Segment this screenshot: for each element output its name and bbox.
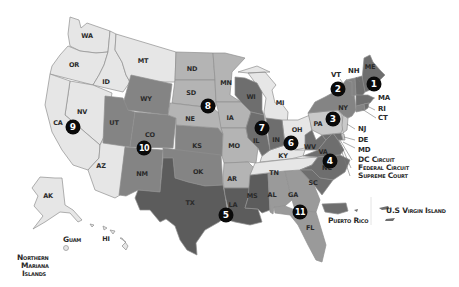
label-ok: OK — [193, 169, 203, 176]
label-id: ID — [102, 79, 109, 86]
label-sc: SC — [308, 180, 317, 187]
circuit-badge-8[interactable]: 8 — [201, 99, 216, 114]
label-pa: PA — [314, 121, 323, 128]
label-nj: NJ — [358, 126, 366, 133]
label-me: ME — [365, 64, 376, 71]
label-co: CO — [145, 132, 155, 139]
label-ne: NE — [185, 116, 194, 123]
label-ak: AK — [43, 193, 53, 200]
label-or: OR — [69, 62, 79, 69]
label-la: LA — [229, 202, 238, 209]
label-mt: MT — [138, 58, 149, 65]
guam-shape[interactable] — [64, 246, 69, 251]
label-oh: OH — [292, 127, 303, 134]
label-ia: IA — [226, 115, 233, 122]
label-nh: NH — [348, 68, 359, 75]
label-ut: UT — [109, 120, 118, 127]
label-nv: NV — [77, 109, 87, 116]
label-usvi: U.S Virgin Island — [386, 207, 446, 215]
puerto-rico-islet — [354, 209, 358, 212]
label-wi: WI — [246, 94, 255, 101]
circuit-badge-3[interactable]: 3 — [326, 112, 341, 127]
label-nm: NM — [136, 171, 148, 178]
label-mo: MO — [228, 143, 240, 150]
label-ma: MA — [378, 95, 390, 102]
label-md: MD — [358, 147, 370, 154]
label-supreme-court: Supreme Court — [358, 172, 408, 180]
circuit-badge-6[interactable]: 6 — [284, 136, 299, 151]
circuit-badge-10[interactable]: 10 — [137, 141, 152, 156]
label-il: IL — [253, 138, 259, 145]
label-al: AL — [268, 192, 277, 199]
circuit-badge-4[interactable]: 4 — [323, 154, 338, 169]
label-in: IN — [272, 137, 279, 144]
label-tx: TX — [185, 200, 194, 207]
label-wa: WA — [81, 33, 93, 40]
circuit-badge-7[interactable]: 7 — [255, 121, 270, 136]
label-wy: WY — [140, 96, 151, 103]
circuit-badge-1[interactable]: 1 — [367, 77, 382, 92]
label-ri: RI — [378, 106, 386, 113]
label-mn: MN — [220, 80, 232, 87]
state-ak[interactable] — [32, 177, 82, 229]
puerto-rico-shape[interactable] — [322, 203, 348, 214]
circuit-badge-9[interactable]: 9 — [66, 120, 81, 135]
circuit-badge-2[interactable]: 2 — [331, 82, 346, 97]
label-wv: WV — [304, 144, 316, 151]
label-nd: ND — [187, 66, 197, 73]
circuit-badge-5[interactable]: 5 — [219, 208, 234, 223]
label-sd: SD — [186, 90, 196, 97]
label-nmi-line3: Islands — [22, 270, 46, 278]
label-mi: MI — [276, 100, 285, 107]
label-ky: KY — [278, 153, 287, 160]
label-ks: KS — [192, 143, 201, 150]
label-ar: AR — [227, 176, 237, 183]
label-fl: FL — [306, 225, 314, 232]
label-az: AZ — [96, 163, 105, 170]
circuit-badge-11[interactable]: 11 — [293, 205, 308, 220]
label-ct: CT — [378, 115, 388, 122]
label-hi: HI — [102, 236, 109, 243]
label-ms: MS — [247, 193, 258, 200]
label-de: DE — [358, 137, 368, 144]
label-vt: VT — [331, 72, 341, 79]
label-ca: CA — [53, 120, 62, 127]
label-ga: GA — [288, 192, 298, 199]
label-puerto-rico: Puerto Rico — [328, 217, 368, 225]
label-ny: NY — [338, 105, 348, 112]
label-tn: TN — [269, 170, 278, 177]
label-guam: Guam — [63, 236, 81, 244]
